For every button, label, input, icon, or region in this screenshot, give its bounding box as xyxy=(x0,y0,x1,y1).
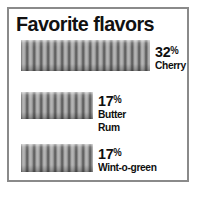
bar-row-wint-o-green: 17% Wint-o-green xyxy=(21,144,191,176)
bar-value-butter-rum: 17% xyxy=(98,92,121,108)
percent-sign: % xyxy=(113,94,121,105)
value-number: 17 xyxy=(98,145,113,162)
bar-value-cherry: 32% xyxy=(155,43,178,59)
bar-label-butter-rum-line1: Butter xyxy=(98,108,126,120)
value-number: 17 xyxy=(98,92,113,109)
bar-value-wint-o-green: 17% xyxy=(98,145,121,161)
infographic-chart: Favorite flavors 32% Cherry 17% Butter R… xyxy=(0,0,204,197)
bar-label-wint-o-green: Wint-o-green xyxy=(98,161,157,173)
bar-row-butter-rum: 17% Butter Rum xyxy=(21,92,191,132)
percent-sign: % xyxy=(170,45,178,56)
bar-row-cherry: 32% Cherry xyxy=(21,40,191,72)
bar-butter-rum xyxy=(21,92,93,119)
page-title: Favorite flavors xyxy=(16,12,166,35)
bar-label-cherry: Cherry xyxy=(155,59,186,71)
value-number: 32 xyxy=(155,43,170,60)
bar-label-butter-rum-line2: Rum xyxy=(98,121,120,133)
percent-sign: % xyxy=(113,147,121,158)
bar-cherry xyxy=(21,40,150,71)
bar-wint-o-green xyxy=(21,144,93,172)
